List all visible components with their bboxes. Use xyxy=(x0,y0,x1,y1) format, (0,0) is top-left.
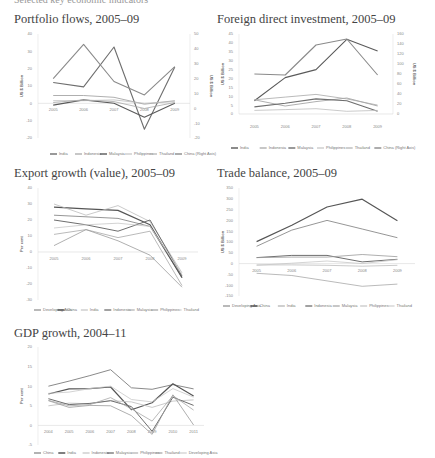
legend-label: Thailand xyxy=(164,450,179,455)
y-tick-label: 40 xyxy=(28,185,33,190)
y-tick-label: 10 xyxy=(28,233,33,238)
x-tick-label: 2005 xyxy=(49,107,59,112)
x-tick-label: 2005 xyxy=(252,268,262,273)
y-right-axis-label: US $ Billion xyxy=(209,75,214,98)
legend-label: Thailand xyxy=(397,303,412,308)
y-tick-label: 5 xyxy=(30,403,33,408)
series-line xyxy=(257,265,398,266)
y-tick-label: 50 xyxy=(229,250,234,255)
y-tick-label: 0 xyxy=(30,101,33,106)
y-tick-label: 0 xyxy=(231,111,234,116)
y-tick-label: 30 xyxy=(28,201,33,206)
y-right-tick-label: 40 xyxy=(194,46,199,51)
y-tick-label: 30 xyxy=(28,49,33,54)
x-tick-label: 2008 xyxy=(358,268,368,273)
y-tick-label: 100 xyxy=(226,239,233,244)
y-tick-label: 300 xyxy=(226,196,233,201)
y-right-tick-label: 40 xyxy=(397,91,402,96)
x-tick-label: 2010 xyxy=(168,429,178,434)
y-right-tick-label: 100 xyxy=(397,61,404,66)
legend-label: Indonesia xyxy=(269,145,287,150)
y-right-tick-label: 0 xyxy=(194,106,197,111)
legend-label: Thailand xyxy=(184,307,199,312)
y-tick-label: 40 xyxy=(229,40,234,45)
y-right-tick-label: 10 xyxy=(194,91,199,96)
x-tick-label: 2006 xyxy=(82,256,92,261)
y-right-tick-label: 0 xyxy=(397,111,400,116)
series-line xyxy=(257,220,398,246)
y-tick-label: 15 xyxy=(28,364,33,369)
x-tick-label: 2004 xyxy=(44,429,54,434)
x-tick-label: 2006 xyxy=(287,268,297,273)
legend-label: Indonesia xyxy=(314,303,332,308)
chart-plot: 454035302520151050US $ Billion1601401201… xyxy=(217,30,427,160)
legend-label: China xyxy=(66,307,77,312)
chart-title: GDP growth, 2004–11 xyxy=(14,326,127,341)
x-tick-label: 2007 xyxy=(110,107,120,112)
x-tick-label: 2009 xyxy=(373,124,383,129)
y-right-tick-label: 50 xyxy=(194,31,199,36)
x-tick-label: 2009 xyxy=(393,268,403,273)
legend-label: Thailand xyxy=(355,145,370,150)
y-right-tick-label: 20 xyxy=(194,76,199,81)
y-tick-label: -50 xyxy=(227,272,234,277)
legend-label: Indonesia xyxy=(84,151,102,156)
chart-title: Export growth (value), 2005–09 xyxy=(14,166,175,181)
y-tick-label: 20 xyxy=(229,76,234,81)
y-tick-label: 250 xyxy=(226,207,233,212)
legend-label: China xyxy=(259,303,270,308)
chart-plot: 350300250200150100500-50-100-150US $ Bil… xyxy=(217,184,427,314)
y-tick-label: 0 xyxy=(30,423,33,428)
x-tick-label: 2005 xyxy=(65,429,75,434)
y-right-tick-label: 20 xyxy=(397,101,402,106)
y-tick-label: 10 xyxy=(28,384,33,389)
x-tick-label: 2011 xyxy=(189,429,198,434)
series-line xyxy=(48,397,193,431)
y-tick-label: 5 xyxy=(231,103,234,108)
y-tick-label: 150 xyxy=(226,229,233,234)
chart-foreign-direct-investment: Foreign direct investment, 2005–09 45403… xyxy=(217,12,427,157)
y-right-axis-label: US $ Billion xyxy=(412,63,417,86)
y-axis-label: Per cent xyxy=(19,387,24,403)
y-axis-label: US $ Billion xyxy=(220,62,225,85)
y-tick-label: -20 xyxy=(26,135,33,140)
y-axis-label: US $ Billion xyxy=(19,74,24,97)
y-tick-label: 40 xyxy=(28,31,33,36)
chart-plot: 20151050-5Per cent2004200520062007200820… xyxy=(14,343,214,455)
series-line xyxy=(257,273,398,286)
chart-title: Portfolio flows, 2005–09 xyxy=(14,12,139,27)
chart-export-growth: Export growth (value), 2005–09 403020100… xyxy=(14,166,214,311)
chart-trade-balance: Trade balance, 2005–09 35030025020015010… xyxy=(217,166,427,311)
y-tick-label: 0 xyxy=(231,261,234,266)
series-line xyxy=(53,44,175,95)
legend-label: Malaysia xyxy=(116,450,133,455)
y-tick-label: 30 xyxy=(229,58,234,63)
page-header-fragment: Selected key economic indicators xyxy=(14,0,148,5)
chart-plot: 403020100-10-20-30Per cent20052006200720… xyxy=(14,184,214,314)
chart-portfolio-flows: Portfolio flows, 2005–09 403020100-10-20… xyxy=(14,12,214,157)
y-tick-label: -30 xyxy=(26,297,33,302)
legend-label: China xyxy=(43,450,54,455)
y-tick-label: 10 xyxy=(229,94,234,99)
legend-label: Thailand xyxy=(159,151,174,156)
y-right-tick-label: -10 xyxy=(194,121,201,126)
y-tick-label: 200 xyxy=(226,218,233,223)
legend-label: India xyxy=(287,303,296,308)
series-line xyxy=(254,39,377,100)
y-tick-label: 0 xyxy=(30,249,33,254)
legend-label: India xyxy=(90,307,99,312)
legend-label: Philippines xyxy=(369,303,388,308)
y-tick-label: -20 xyxy=(26,281,33,286)
y-right-tick-label: 140 xyxy=(397,41,404,46)
legend-label: India xyxy=(240,145,249,150)
x-tick-label: 2005 xyxy=(250,124,260,129)
x-tick-label: 2006 xyxy=(79,107,89,112)
y-right-tick-label: 80 xyxy=(397,71,402,76)
y-tick-label: 25 xyxy=(229,67,234,72)
chart-title: Foreign direct investment, 2005–09 xyxy=(217,12,395,27)
series-line xyxy=(53,47,175,129)
x-tick-label: 2007 xyxy=(312,124,322,129)
y-axis-label: Per cent xyxy=(19,235,24,251)
x-tick-label: 2007 xyxy=(106,429,116,434)
legend-label: Philippines xyxy=(326,145,345,150)
